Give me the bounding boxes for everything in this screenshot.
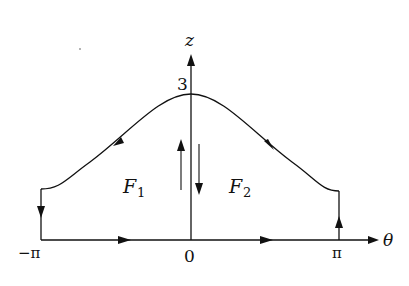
arrow-curve-right-icon [264, 139, 274, 150]
arrow-down-left-icon [37, 206, 45, 218]
x-tick-zero: 0 [184, 246, 195, 266]
region-F2-label: F [228, 175, 243, 197]
region-F1-subscript: 1 [137, 185, 145, 200]
arrow-up-interior-icon [177, 139, 185, 151]
arrow-up-right-icon [335, 216, 343, 228]
theta-axis-label: θ [383, 230, 393, 250]
region-F1-label: F [122, 175, 137, 197]
x-tick-neg-pi: −π [18, 244, 41, 262]
z-axis-arrowhead-icon [187, 54, 195, 66]
theta-axis-arrowhead-icon [368, 236, 379, 244]
arrow-down-interior-icon [195, 183, 203, 195]
speck [79, 48, 81, 50]
contour-diagram: z 3 θ −π 0 π F 1 F 2 [0, 0, 409, 286]
arrow-right-bottom-left-icon [118, 236, 131, 244]
x-tick-pi: π [332, 244, 342, 262]
z-axis-label: z [184, 30, 195, 50]
z-tick-3: 3 [177, 74, 188, 94]
region-F2-subscript: 2 [243, 185, 251, 200]
contour-curve [41, 94, 339, 191]
arrow-right-bottom-right-icon [260, 236, 273, 244]
